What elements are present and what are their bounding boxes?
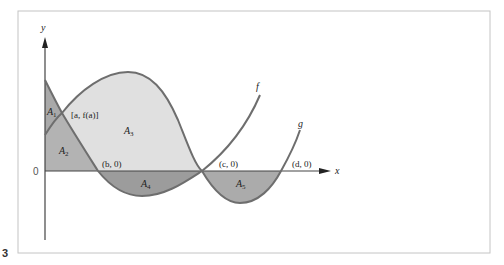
point-b-label: (b, 0) — [102, 159, 122, 169]
y-axis-arrowhead-icon — [42, 37, 48, 48]
point-d-label: (d, 0) — [292, 159, 312, 169]
y-axis-label: y — [40, 22, 46, 33]
area-between-curves-figure: y x 0 f g [a, f(a)] (b, 0) (c, 0) (d, 0)… — [0, 0, 504, 265]
origin-label: 0 — [33, 166, 39, 177]
point-a-label: [a, f(a)] — [71, 110, 98, 120]
page-marker: 3 — [2, 247, 8, 259]
curve-f-label: f — [256, 81, 260, 92]
point-c-label: (c, 0) — [219, 159, 238, 169]
x-axis-label: x — [334, 165, 340, 176]
x-axis-arrowhead-icon — [319, 168, 331, 174]
curve-g-label: g — [298, 118, 303, 129]
